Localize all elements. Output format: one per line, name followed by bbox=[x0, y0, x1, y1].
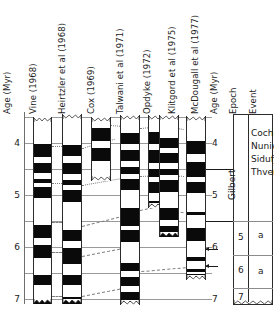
epoch-number-6: 6 bbox=[238, 265, 244, 275]
arrow-marker-2 bbox=[206, 266, 218, 267]
normal-band bbox=[92, 148, 110, 161]
normal-band bbox=[92, 128, 110, 141]
normal-band bbox=[121, 179, 139, 190]
column-header-event: Event bbox=[248, 89, 258, 114]
tie-line-1 bbox=[52, 146, 62, 147]
ragged-bottom-edge-mcdougall bbox=[187, 275, 205, 280]
event-label-nunivak: Nunivak bbox=[251, 141, 274, 151]
normal-band bbox=[160, 153, 178, 163]
y-right-tick-label-4: 4 bbox=[212, 138, 222, 148]
epoch-number-5: 5 bbox=[238, 232, 244, 242]
gridline-3_5 bbox=[24, 117, 212, 118]
polarity-column-talwani bbox=[120, 115, 140, 305]
ragged-top-edge-klitgord bbox=[160, 115, 178, 120]
column-header-mcdougall: McDougall et al (1977) bbox=[190, 15, 200, 114]
normal-band bbox=[34, 163, 51, 173]
normal-band bbox=[34, 179, 51, 183]
row-separator-anomaly7 bbox=[233, 288, 273, 289]
ragged-bottom-edge-cox bbox=[92, 176, 110, 181]
y-tick-label-7: 7 bbox=[2, 294, 20, 304]
normal-band bbox=[160, 169, 178, 175]
normal-band bbox=[63, 275, 81, 285]
normal-band bbox=[187, 269, 205, 272]
polarity-column-heirtzler bbox=[62, 114, 82, 304]
column-header-epoch: Epoch bbox=[228, 87, 238, 114]
axis-label-age-right: Age (Myr) bbox=[209, 71, 219, 114]
gridline-7_0 bbox=[24, 299, 212, 300]
arrow-marker-1 bbox=[206, 249, 218, 250]
y-tick-label-4: 4 bbox=[2, 138, 20, 148]
tie-line-10 bbox=[52, 222, 62, 223]
ragged-bottom-edge-talwani bbox=[121, 300, 139, 305]
normal-band bbox=[187, 162, 205, 177]
normal-band bbox=[34, 187, 51, 198]
ragged-top-edge-mcdougall bbox=[187, 116, 205, 121]
normal-band bbox=[187, 141, 205, 154]
column-header-vine: Vine (1968) bbox=[28, 63, 38, 114]
normal-band bbox=[187, 257, 205, 261]
row-separator-anomaly5 bbox=[233, 221, 273, 222]
ragged-bottom-edge-klitgord bbox=[160, 232, 178, 237]
epoch-event-divider bbox=[248, 114, 249, 302]
normal-band bbox=[63, 163, 81, 174]
tie-line-6 bbox=[52, 183, 62, 184]
normal-band bbox=[34, 144, 51, 157]
normal-band bbox=[63, 145, 81, 156]
normal-band bbox=[160, 180, 178, 192]
event-letter-a-2: a bbox=[258, 266, 264, 276]
epoch-number-7: 7 bbox=[238, 292, 244, 302]
ragged-bottom-edge-heirtzler bbox=[63, 299, 81, 304]
polarity-column-vine bbox=[33, 117, 52, 304]
column-header-heirtzler: Heirtzler et al (1968) bbox=[57, 23, 67, 114]
normal-band bbox=[187, 212, 205, 215]
event-label-sidufjall: Sidufjall bbox=[251, 154, 274, 164]
tie-line-16 bbox=[52, 296, 62, 297]
normal-band bbox=[34, 225, 51, 238]
tie-line-14 bbox=[52, 252, 62, 253]
normal-band bbox=[121, 150, 139, 161]
normal-band bbox=[63, 230, 81, 241]
event-label-cochiti: Cochiti bbox=[251, 128, 274, 138]
gridline-4_0 bbox=[24, 143, 212, 144]
gridline-5_0 bbox=[24, 195, 212, 196]
axis-label-age-left: Age (Myr) bbox=[2, 71, 12, 114]
ragged-top-edge-heirtzler bbox=[63, 114, 81, 119]
normal-band bbox=[121, 133, 139, 144]
ragged-top-edge-cox bbox=[92, 117, 110, 122]
ragged-top-edge-vine bbox=[34, 117, 51, 122]
column-header-opdyke: Opdyke (1972) bbox=[142, 49, 152, 114]
normal-band bbox=[187, 228, 205, 241]
normal-band bbox=[121, 208, 139, 226]
epoch-name-gilbert: Gilbert bbox=[227, 170, 237, 200]
ragged-bottom-edge-vine bbox=[34, 299, 51, 304]
ragged-top-edge-talwani bbox=[121, 115, 139, 120]
row-separator-anomaly6 bbox=[233, 255, 273, 256]
normal-band bbox=[63, 248, 81, 264]
normal-band bbox=[121, 167, 139, 174]
normal-band bbox=[160, 208, 178, 220]
normal-band bbox=[160, 138, 178, 148]
gridline-4_5 bbox=[24, 169, 212, 170]
y-axis-line bbox=[24, 112, 25, 304]
y-tick-label-5: 5 bbox=[2, 190, 20, 200]
y-tick-label-6: 6 bbox=[2, 242, 20, 252]
polarity-timescale-figure: Age (Myr) Vine (1968) Heirtzler et al (1… bbox=[0, 0, 274, 318]
y-right-tick-label-6: 6 bbox=[212, 242, 222, 252]
event-label-thvera: Thvera bbox=[251, 167, 274, 177]
boundary-line-anomaly5 bbox=[206, 221, 236, 222]
normal-band bbox=[34, 245, 51, 258]
column-header-talwani: Talwani et al (1971) bbox=[115, 28, 125, 114]
y-right-tick-label-5: 5 bbox=[212, 190, 222, 200]
normal-band bbox=[187, 182, 205, 193]
y-right-tick-label-7: 7 bbox=[212, 294, 222, 304]
column-header-cox: Cox (1969) bbox=[86, 66, 96, 114]
polarity-column-mcdougall bbox=[186, 116, 206, 280]
normal-band bbox=[34, 275, 51, 285]
polarity-column-klitgord-final bbox=[159, 115, 179, 237]
polarity-column-cox bbox=[91, 117, 111, 181]
normal-band bbox=[63, 180, 81, 185]
normal-band bbox=[121, 263, 139, 271]
column-header-klitgord: Klitgord et al (1975) bbox=[167, 26, 177, 114]
normal-band bbox=[121, 230, 139, 242]
event-letter-a-1: a bbox=[258, 230, 264, 240]
